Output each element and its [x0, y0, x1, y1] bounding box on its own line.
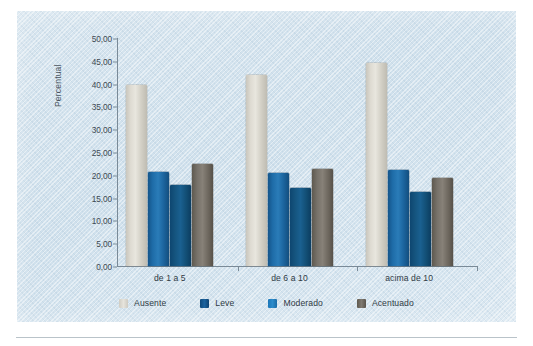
bar-leve[interactable] — [388, 170, 409, 266]
y-axis-tick-label: 15,00 — [92, 194, 112, 204]
x-axis-tick-mark — [357, 266, 358, 271]
y-axis-tick-label: 5,00 — [96, 239, 112, 249]
bar-ausente[interactable] — [126, 85, 147, 266]
y-axis-tick-label: 30,00 — [92, 125, 112, 135]
page-divider-rule — [16, 337, 517, 338]
y-axis-title: Percentual — [53, 7, 63, 107]
scanned-page: Percentual 50,0045,0040,0035,0030,0025,0… — [0, 0, 533, 346]
legend-item-ausente[interactable]: Ausente — [119, 298, 166, 308]
x-axis-label: de 1 a 5 — [154, 273, 186, 283]
legend-item-moderado[interactable]: Moderado — [268, 298, 323, 308]
bar-acentuado[interactable] — [192, 164, 213, 266]
bar-ausente[interactable] — [246, 75, 267, 266]
chart-panel: Percentual 50,0045,0040,0035,0030,0025,0… — [17, 11, 516, 322]
x-axis-label: acima de 10 — [385, 273, 433, 283]
bar-leve[interactable] — [268, 173, 289, 266]
x-axis-label: de 6 a 10 — [271, 273, 308, 283]
y-axis-tick-label: 50,00 — [92, 34, 112, 44]
y-axis-tick-label: 35,00 — [92, 102, 112, 112]
x-axis-tick-mark — [238, 266, 239, 271]
legend-swatch-ausente-icon — [119, 299, 128, 308]
chart-legend: AusenteLeveModeradoAcentuado — [17, 298, 516, 308]
y-axis-tick-label: 0,00 — [96, 262, 112, 272]
legend-swatch-moderado-icon — [268, 299, 277, 308]
bar-ausente[interactable] — [366, 63, 387, 266]
bar-moderado[interactable] — [410, 192, 431, 266]
legend-item-acentuado[interactable]: Acentuado — [357, 298, 414, 308]
bar-group — [126, 38, 213, 266]
legend-item-leve[interactable]: Leve — [200, 298, 234, 308]
legend-label: Ausente — [134, 298, 166, 308]
bar-group — [246, 38, 333, 266]
legend-label: Acentuado — [372, 298, 414, 308]
x-axis-tick-mark — [477, 266, 478, 271]
bar-acentuado[interactable] — [432, 178, 453, 266]
legend-label: Moderado — [283, 298, 323, 308]
plot-area: Percentual 50,0045,0040,0035,0030,0025,0… — [17, 11, 516, 322]
y-axis-tick-label: 20,00 — [92, 171, 112, 181]
legend-label: Leve — [215, 298, 234, 308]
y-axis-tick-label: 40,00 — [92, 80, 112, 90]
bar-acentuado[interactable] — [312, 169, 333, 266]
x-axis-line — [117, 266, 477, 267]
y-axis-tick-label: 10,00 — [92, 216, 112, 226]
bars-container — [118, 38, 477, 266]
y-axis-tick-label: 25,00 — [92, 148, 112, 158]
legend-swatch-acentuado-icon — [357, 299, 366, 308]
bar-moderado[interactable] — [290, 188, 311, 266]
bar-group — [366, 38, 453, 266]
bar-leve[interactable] — [148, 172, 169, 266]
y-axis-tick-label: 45,00 — [92, 57, 112, 67]
bar-moderado[interactable] — [170, 185, 191, 266]
legend-swatch-leve-icon — [200, 299, 209, 308]
y-axis-tick-labels: 50,0045,0040,0035,0030,0025,0020,0015,00… — [77, 39, 117, 266]
